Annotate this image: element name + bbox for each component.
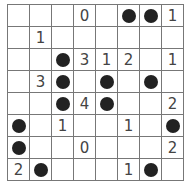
grid-cell-r3-c0[interactable] <box>8 71 30 93</box>
grid-cell-r6-c0[interactable] <box>8 137 30 159</box>
grid-cell-r2-c3[interactable]: 3 <box>74 49 96 71</box>
clue-number: 1 <box>124 117 134 135</box>
clue-number: 3 <box>36 73 46 91</box>
grid-cell-r6-c7[interactable]: 2 <box>162 137 184 159</box>
grid-cell-r7-c1[interactable] <box>30 159 52 181</box>
grid-cell-r0-c4[interactable] <box>96 5 118 27</box>
bulb-icon <box>144 163 158 177</box>
grid-cell-r0-c0[interactable] <box>8 5 30 27</box>
grid-cell-r1-c7[interactable] <box>162 27 184 49</box>
grid-cell-r4-c6[interactable] <box>140 93 162 115</box>
clue-number: 2 <box>168 139 178 157</box>
clue-number: 2 <box>168 95 178 113</box>
grid-cell-r4-c1[interactable] <box>30 93 52 115</box>
grid-cell-r0-c6[interactable] <box>140 5 162 27</box>
grid-cell-r6-c2[interactable] <box>52 137 74 159</box>
clue-number: 1 <box>168 7 178 25</box>
grid-cell-r7-c7[interactable] <box>162 159 184 181</box>
clue-number: 1 <box>36 29 46 47</box>
grid-cell-r2-c1[interactable] <box>30 49 52 71</box>
grid-cell-r0-c1[interactable] <box>30 5 52 27</box>
grid-cell-r5-c7[interactable] <box>162 115 184 137</box>
grid-cell-r1-c1[interactable]: 1 <box>30 27 52 49</box>
clue-number: 2 <box>124 51 134 69</box>
puzzle-grid: 0113121342110221 <box>7 4 184 181</box>
grid-cell-r5-c6[interactable] <box>140 115 162 137</box>
grid-cell-r5-c4[interactable] <box>96 115 118 137</box>
grid-cell-r4-c2[interactable] <box>52 93 74 115</box>
bulb-icon <box>12 141 26 155</box>
grid-cell-r3-c4[interactable] <box>96 71 118 93</box>
clue-number: 0 <box>80 7 90 25</box>
grid-cell-r3-c3[interactable] <box>74 71 96 93</box>
grid-cell-r4-c7[interactable]: 2 <box>162 93 184 115</box>
grid-cell-r7-c4[interactable] <box>96 159 118 181</box>
grid-cell-r2-c6[interactable] <box>140 49 162 71</box>
grid-cell-r2-c0[interactable] <box>8 49 30 71</box>
grid-cell-r7-c5[interactable]: 1 <box>118 159 140 181</box>
clue-number: 2 <box>14 161 24 179</box>
grid-cell-r5-c2[interactable]: 1 <box>52 115 74 137</box>
grid-cell-r0-c7[interactable]: 1 <box>162 5 184 27</box>
bulb-icon <box>12 119 26 133</box>
grid-cell-r6-c5[interactable] <box>118 137 140 159</box>
bulb-icon <box>144 75 158 89</box>
grid-cell-r7-c6[interactable] <box>140 159 162 181</box>
bulb-icon <box>166 119 180 133</box>
grid-cell-r1-c5[interactable] <box>118 27 140 49</box>
grid-cell-r1-c4[interactable] <box>96 27 118 49</box>
grid-cell-r5-c1[interactable] <box>30 115 52 137</box>
grid-cell-r0-c5[interactable] <box>118 5 140 27</box>
grid-cell-r6-c6[interactable] <box>140 137 162 159</box>
grid-cell-r7-c0[interactable]: 2 <box>8 159 30 181</box>
grid-cell-r5-c0[interactable] <box>8 115 30 137</box>
clue-number: 1 <box>102 51 112 69</box>
grid-cell-r4-c4[interactable] <box>96 93 118 115</box>
grid-cell-r3-c1[interactable]: 3 <box>30 71 52 93</box>
grid-cell-r1-c2[interactable] <box>52 27 74 49</box>
grid-cell-r1-c3[interactable] <box>74 27 96 49</box>
clue-number: 3 <box>80 51 90 69</box>
grid-cell-r6-c4[interactable] <box>96 137 118 159</box>
grid-cell-r4-c3[interactable]: 4 <box>74 93 96 115</box>
clue-number: 0 <box>80 139 90 157</box>
grid-cell-r5-c5[interactable]: 1 <box>118 115 140 137</box>
grid-cell-r6-c1[interactable] <box>30 137 52 159</box>
grid-cell-r1-c6[interactable] <box>140 27 162 49</box>
bulb-icon <box>100 97 114 111</box>
clue-number: 1 <box>58 117 68 135</box>
grid-cell-r0-c2[interactable] <box>52 5 74 27</box>
grid-cell-r7-c3[interactable] <box>74 159 96 181</box>
grid-cell-r1-c0[interactable] <box>8 27 30 49</box>
grid-cell-r2-c7[interactable]: 1 <box>162 49 184 71</box>
bulb-icon <box>56 53 70 67</box>
grid-cell-r4-c5[interactable] <box>118 93 140 115</box>
grid-cell-r3-c7[interactable] <box>162 71 184 93</box>
bulb-icon <box>34 163 48 177</box>
bulb-icon <box>122 9 136 23</box>
clue-number: 4 <box>80 95 90 113</box>
grid-cell-r0-c3[interactable]: 0 <box>74 5 96 27</box>
grid-cell-r7-c2[interactable] <box>52 159 74 181</box>
bulb-icon <box>56 75 70 89</box>
grid-cell-r3-c5[interactable] <box>118 71 140 93</box>
grid-cell-r3-c6[interactable] <box>140 71 162 93</box>
grid-cell-r6-c3[interactable]: 0 <box>74 137 96 159</box>
clue-number: 1 <box>124 161 134 179</box>
bulb-icon <box>100 75 114 89</box>
grid-cell-r2-c4[interactable]: 1 <box>96 49 118 71</box>
grid-cell-r5-c3[interactable] <box>74 115 96 137</box>
grid-cell-r2-c5[interactable]: 2 <box>118 49 140 71</box>
clue-number: 1 <box>168 51 178 69</box>
grid-cell-r4-c0[interactable] <box>8 93 30 115</box>
grid-cell-r3-c2[interactable] <box>52 71 74 93</box>
grid-cell-r2-c2[interactable] <box>52 49 74 71</box>
bulb-icon <box>56 97 70 111</box>
bulb-icon <box>144 9 158 23</box>
